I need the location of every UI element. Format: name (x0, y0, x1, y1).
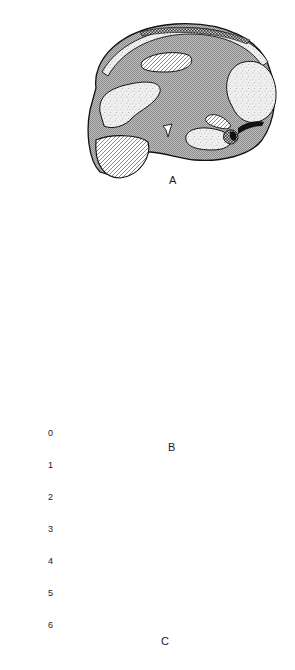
legend-tick-3: 3 (48, 525, 53, 534)
panel-a-diagram (88, 24, 276, 178)
legend-tick-5: 5 (48, 589, 53, 598)
figure-stage: 0 1 2 3 4 5 6 A B C (0, 0, 295, 670)
legend-tick-2: 2 (48, 493, 53, 502)
contour-figure (0, 0, 295, 670)
panel-label-c: C (161, 636, 169, 647)
panel-label-a: A (169, 175, 176, 186)
legend-tick-4: 4 (48, 557, 53, 566)
legend-tick-1: 1 (48, 461, 53, 470)
legend-tick-6: 6 (48, 621, 53, 630)
panel-label-b: B (168, 442, 175, 453)
legend-tick-0: 0 (48, 429, 53, 438)
